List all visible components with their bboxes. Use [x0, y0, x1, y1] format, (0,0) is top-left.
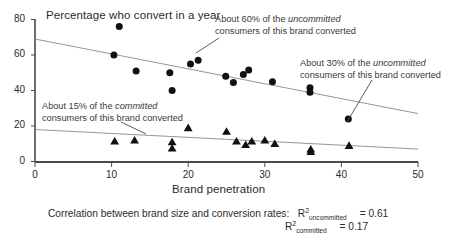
data-point-committed [184, 124, 193, 132]
annotation-committed-15: About 15% of the committed consumers of … [42, 101, 183, 124]
y-tick-label-60: 60 [3, 48, 25, 59]
annotation-line-2: consumers of this brand converted [42, 113, 183, 125]
annotation-line-2: consumers of this brand converted [300, 70, 441, 82]
annotation-uncommitted-60: About 60% of the uncommitted consumers o… [215, 14, 356, 37]
annotation-emphasis: committed [115, 101, 157, 111]
y-tick-label-40: 40 [3, 84, 25, 95]
data-point-uncommitted [230, 79, 237, 86]
data-point-uncommitted [245, 67, 252, 74]
data-point-uncommitted [240, 71, 247, 78]
data-point-uncommitted [187, 60, 194, 67]
data-point-uncommitted [166, 69, 173, 76]
data-point-committed [130, 136, 139, 144]
annotation-line-1: About 30% of the uncommitted [300, 58, 441, 70]
data-point-uncommitted [306, 89, 313, 96]
rsq-subscript: committed [296, 227, 326, 234]
rsq-superscript: 2 [292, 220, 296, 227]
annotation-line-1: About 60% of the uncommitted [215, 14, 356, 26]
data-point-uncommitted [133, 67, 140, 74]
data-point-uncommitted [169, 87, 176, 94]
annotation-text: About 15% of the [42, 101, 115, 111]
annotation-emphasis: uncommitted [373, 58, 426, 68]
x-tick-label-50: 50 [406, 169, 430, 180]
annotation-uncommitted-30: About 30% of the uncommitted consumers o… [300, 58, 441, 81]
chart-figure: Percentage who convert in a year Brand p… [0, 0, 458, 243]
data-point-committed [222, 127, 231, 135]
leader-line-30 [347, 80, 372, 122]
x-tick-label-10: 10 [100, 169, 124, 180]
annotation-text: About 60% of the [215, 14, 288, 24]
annotation-line-1: About 15% of the committed [42, 101, 183, 113]
x-tick-label-40: 40 [329, 169, 353, 180]
leader-line-60 [196, 38, 219, 53]
correlation-footnote-text: Correlation between brand size and conve… [48, 208, 289, 219]
annotation-line-2: consumers of this brand converted [215, 26, 356, 38]
rsq-committed-value: = 0.17 [340, 221, 369, 232]
data-point-committed [110, 137, 119, 145]
annotation-emphasis: uncommitted [288, 14, 341, 24]
data-point-committed [232, 137, 241, 145]
y-tick-label-0: 0 [3, 155, 25, 166]
data-point-uncommitted [116, 23, 123, 30]
rsq-uncommitted-value: = 0.61 [360, 208, 389, 219]
annotation-text: About 30% of the [300, 58, 373, 68]
data-point-uncommitted [195, 57, 202, 64]
data-point-committed [270, 140, 279, 148]
data-point-committed [260, 136, 269, 144]
x-axis-title: Brand penetration [172, 183, 265, 195]
page-title: Percentage who convert in a year [46, 9, 221, 21]
rsq-committed: R2committed [285, 220, 327, 234]
data-point-uncommitted [269, 78, 276, 85]
correlation-footnote-row2: R2committed = 0.17 [285, 220, 368, 234]
y-tick-label-20: 20 [3, 119, 25, 130]
x-tick-label-30: 30 [253, 169, 277, 180]
y-tick-label-80: 80 [3, 13, 25, 24]
data-point-uncommitted [110, 52, 117, 59]
data-point-uncommitted [222, 73, 229, 80]
x-tick-label-20: 20 [176, 169, 200, 180]
x-tick-label-0: 0 [23, 169, 47, 180]
rsq-superscript: 2 [305, 207, 309, 214]
